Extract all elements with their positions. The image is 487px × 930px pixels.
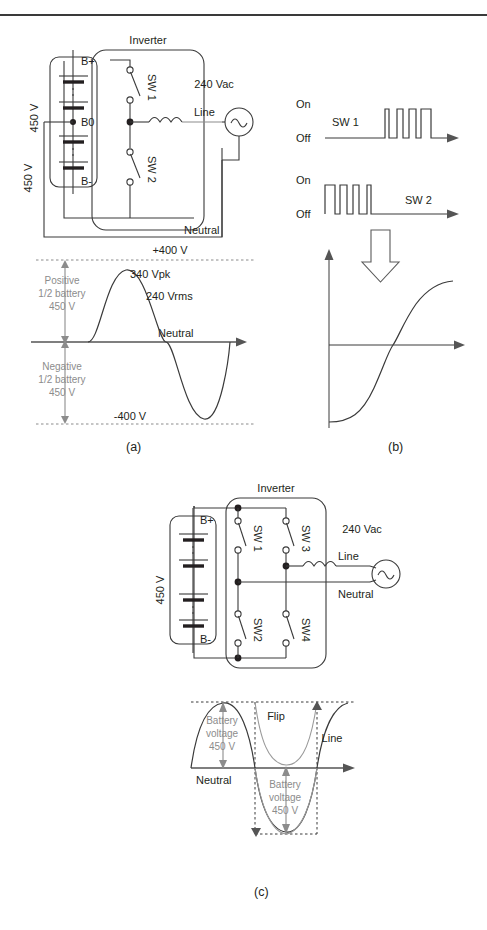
- ac-source-label-a: 240 Vac: [194, 78, 234, 90]
- sw1-off-label-b: Off: [296, 132, 311, 144]
- battery-terminal-negative-c: B-: [200, 633, 211, 645]
- annotation-lower-line1-c: Battery: [269, 779, 301, 790]
- sw2-blade-a[interactable]: [131, 154, 141, 178]
- rail-positive-label-a: +400 V: [152, 244, 188, 256]
- sw2-blade-c[interactable]: [239, 616, 247, 639]
- s-curve-b: [329, 281, 453, 422]
- sw1-on-label-b: On: [296, 98, 311, 110]
- annotation-lower-line2-c: voltage: [269, 792, 302, 803]
- neutral-label-a: Neutral: [184, 224, 219, 236]
- inductor-c: [303, 562, 336, 567]
- zero-axis-arrow-a: [236, 338, 247, 347]
- rms-label-a: 240 Vrms: [146, 290, 193, 302]
- measure-negative-arrow-top: [61, 340, 69, 348]
- sw3-terminal-bottom-c: [283, 547, 289, 553]
- panel-b-traces: On Off SW 1 On Off SW 2: [292, 92, 487, 232]
- annotation-negative-line3: 450 V: [49, 387, 75, 398]
- sw1-axis-arrow-b: [447, 134, 459, 143]
- sw4-blade-c[interactable]: [287, 616, 295, 639]
- panel-b-label: (b): [388, 440, 403, 454]
- sw4-label-c: SW4: [300, 618, 312, 642]
- battery-terminal-positive-c: B+: [200, 514, 214, 526]
- sw2-label-c: SW2: [252, 618, 264, 642]
- sw2-label-a: SW 2: [146, 156, 158, 183]
- ac-source-sine-icon-c: [378, 571, 394, 579]
- peak-label-a: 340 Vpk: [130, 268, 171, 280]
- panel-c-label: (c): [254, 885, 269, 899]
- annotation-positive-line2: 1/2 battery: [38, 288, 85, 299]
- sw3-label-c: SW 3: [300, 525, 312, 552]
- annotation-negative-line2: 1/2 battery: [38, 374, 85, 385]
- panel-b-result: [300, 228, 487, 443]
- sw3-blade-c[interactable]: [287, 523, 295, 546]
- zero-axis-arrow-c: [343, 764, 355, 773]
- annotation-upper-line3-c: 450 V: [209, 741, 235, 752]
- neutral-label-c: Neutral: [338, 588, 373, 600]
- panel-a-label: (a): [126, 440, 141, 454]
- line-label-c: Line: [338, 550, 359, 562]
- ac-source-sine-icon: [231, 119, 247, 127]
- inductor-a: [149, 118, 182, 123]
- panel-c-circuit: Inverter B+ B- 450 V: [148, 478, 423, 673]
- running-head: [0, 0, 487, 18]
- panel-a-caption: (a): [126, 440, 141, 454]
- sw4-terminal-bottom-c: [283, 640, 289, 646]
- annotation-lower-line3-c: 450 V: [272, 805, 298, 816]
- y-axis-arrow-b: [325, 249, 334, 260]
- battery-terminal-mid-a: B0: [81, 116, 94, 128]
- wire-top-to-sw1: [110, 60, 130, 68]
- annotation-positive-line1: Positive: [44, 275, 79, 286]
- inverter-title-c: Inverter: [257, 482, 295, 494]
- zero-axis-label-c: Neutral: [196, 774, 231, 786]
- down-arrow-icon-b: [362, 230, 399, 282]
- measure-negative-arrow-bottom: [61, 416, 69, 424]
- header-rule: [0, 14, 487, 16]
- panel-c-caption: (c): [254, 885, 269, 899]
- annotation-upper-line1-c: Battery: [206, 715, 238, 726]
- sw1-terminal-top-a: [127, 67, 133, 73]
- figure-page: Inverter: [0, 0, 487, 930]
- annotation-positive-line3: 450 V: [49, 301, 75, 312]
- sw1-trace-label-b: SW 1: [332, 116, 359, 128]
- sw2-axis-arrow-b: [447, 210, 459, 219]
- measure-positive-arrow-top: [61, 260, 69, 268]
- ac-source-label-c: 240 Vac: [342, 523, 382, 535]
- panel-c-waveform: Neutral Battery voltage 450 V Battery vo…: [148, 672, 423, 872]
- flip-label-c: Flip: [267, 710, 285, 722]
- sw2-on-label-b: On: [296, 174, 311, 186]
- sw1-label-a: SW 1: [146, 74, 158, 101]
- wire-src-neutral-a: [222, 136, 239, 160]
- panel-a-circuit: Inverter: [18, 30, 283, 245]
- ghost-waveform-upper-c: [255, 702, 317, 765]
- rail-negative-label-a: -400 V: [114, 410, 147, 422]
- flip-arrow-left-c: [251, 828, 261, 837]
- battery-voltage-c: 450 V: [154, 575, 166, 604]
- sw1-terminal-bottom-c: [235, 547, 241, 553]
- line-label-a: Line: [194, 106, 215, 118]
- battery-upper-voltage-a: 450 V: [28, 103, 40, 132]
- panel-b-caption: (b): [388, 440, 403, 454]
- wire-neutral-return: [44, 122, 222, 237]
- inverter-title-a: Inverter: [129, 34, 167, 46]
- battery-terminal-negative-a: B-: [81, 175, 92, 187]
- wire-negative-return: [64, 61, 194, 218]
- sw2-off-label-b: Off: [296, 208, 311, 220]
- zero-axis-label-a: Neutral: [158, 327, 193, 339]
- x-axis-arrow-b: [454, 341, 465, 350]
- battery-terminal-positive-a: B+: [81, 55, 95, 67]
- sw2-terminal-top-a: [127, 149, 133, 155]
- sw1-blade-a[interactable]: [131, 72, 141, 96]
- annotation-upper-line2-c: voltage: [206, 728, 239, 739]
- battery-lower-voltage-a: 450 V: [22, 163, 34, 192]
- sw1-terminal-bottom-a: [127, 97, 133, 103]
- annotation-negative-line1: Negative: [42, 361, 82, 372]
- sw1-label-c: SW 1: [252, 525, 264, 552]
- sw2-terminal-bottom-a: [127, 179, 133, 185]
- panel-a-waveform: +400 V -400 V Neutral Positive 1/2 batte…: [18, 238, 283, 438]
- line-label-waveform-c: Line: [322, 732, 343, 744]
- sw1-blade-c[interactable]: [239, 523, 247, 546]
- sw2-trace-label-b: SW 2: [405, 194, 432, 206]
- sw2-terminal-bottom-c: [235, 640, 241, 646]
- wire-bplus-to-rail-c: [194, 506, 238, 508]
